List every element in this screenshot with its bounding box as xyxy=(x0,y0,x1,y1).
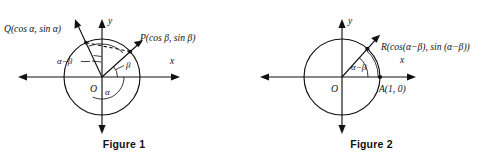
y-axis-label: y xyxy=(107,16,113,26)
angle-label-alpha-minus-beta: α−β xyxy=(351,62,367,72)
angle-arc-beta xyxy=(114,67,118,77)
angle-label-alpha: α xyxy=(105,87,110,97)
x-axis xyxy=(260,73,416,80)
figure-2: R(cos(α−β), sin (α−β)) A(1, 0) x y O α−β… xyxy=(248,0,495,160)
figure-1: Q(cos α, sin α) P(cos β, sin β) x y O α−… xyxy=(0,0,248,160)
point-label-a: A(1, 0) xyxy=(378,83,406,95)
x-axis-label: x xyxy=(169,56,175,66)
figure-board: Q(cos α, sin α) P(cos β, sin β) x y O α−… xyxy=(0,0,495,160)
x-axis xyxy=(18,73,180,80)
y-axis-label: y xyxy=(347,16,353,26)
chord-qp xyxy=(86,43,130,52)
leader-beta xyxy=(116,66,124,70)
figure-1-diagram: Q(cos α, sin α) P(cos β, sin β) x y O α−… xyxy=(0,0,248,136)
angle-label-beta: β xyxy=(125,60,131,70)
point-label-q: Q(cos α, sin α) xyxy=(4,23,61,35)
ray-to-q xyxy=(75,19,103,77)
origin-label: O xyxy=(90,83,97,94)
point-label-p: P(cos β, sin β) xyxy=(139,32,195,44)
angle-arc-alpha-minus-beta xyxy=(89,44,124,53)
x-axis-label: x xyxy=(399,55,405,65)
ray-to-p xyxy=(102,40,143,77)
figure-1-caption: Figure 1 xyxy=(0,138,248,150)
origin-label: O xyxy=(331,83,338,94)
figure-2-diagram: R(cos(α−β), sin (α−β)) A(1, 0) x y O α−β xyxy=(248,0,495,136)
point-label-r: R(cos(α−β), sin (α−β)) xyxy=(380,41,470,53)
figure-2-caption: Figure 2 xyxy=(248,138,495,150)
angle-label-alpha-minus-beta: α−β xyxy=(57,56,73,66)
